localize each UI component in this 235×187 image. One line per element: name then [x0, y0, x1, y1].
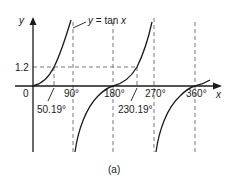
x-tick-label-90: 90°	[64, 88, 79, 99]
tan-graph: y y = tan x 1.2 0 90° 180° 270° 360° x 5…	[0, 0, 235, 187]
y-axis-label: y	[18, 15, 25, 26]
y-tick-label-1.2: 1.2	[15, 62, 29, 73]
x-tick-label-180: 180°	[104, 88, 125, 99]
origin-label: 0	[23, 88, 29, 99]
pointer-50.19	[48, 88, 54, 101]
pointer-230.19	[131, 88, 137, 101]
curve-branch-2	[75, 22, 152, 152]
y-axis-arrow-icon	[30, 17, 37, 25]
annotation-230.19: 230.19°	[118, 104, 153, 115]
annotation-50.19: 50.19°	[37, 104, 66, 115]
figure-caption: (a)	[108, 164, 120, 175]
x-tick-label-270: 270°	[145, 88, 166, 99]
x-tick-label-360: 360°	[186, 88, 207, 99]
reference-lines	[33, 18, 195, 152]
x-axis-label: x	[215, 89, 222, 100]
curve-label: y = tan x	[87, 15, 127, 26]
curve-label-pointer	[73, 22, 86, 28]
curve-branch-1	[33, 20, 71, 86]
